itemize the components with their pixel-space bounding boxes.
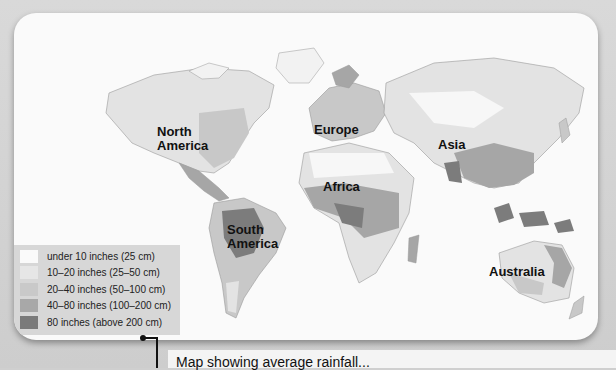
- legend-label: 80 inches (above 200 cm): [47, 317, 162, 328]
- legend-item: 10–20 inches (25–50 cm): [20, 265, 180, 282]
- legend-label: 10–20 inches (25–50 cm): [47, 267, 160, 278]
- label-line: Asia: [438, 138, 465, 152]
- label-line: Europe: [314, 123, 359, 137]
- label-africa: Africa: [323, 180, 360, 194]
- caption-box: Map showing average rainfall...: [168, 350, 616, 368]
- legend-item: 40–80 inches (100–200 cm): [20, 298, 180, 315]
- precipitation-legend: under 10 inches (25 cm) 10–20 inches (25…: [14, 245, 180, 335]
- legend-item: 80 inches (above 200 cm): [20, 314, 180, 331]
- legend-label: under 10 inches (25 cm): [47, 251, 155, 262]
- legend-swatch: [20, 250, 38, 263]
- label-south-america: South America: [227, 223, 278, 251]
- label-asia: Asia: [438, 138, 465, 152]
- label-line: Australia: [489, 265, 545, 279]
- legend-label: 20–40 inches (50–100 cm): [47, 284, 165, 295]
- label-europe: Europe: [314, 123, 359, 137]
- label-line: North: [157, 125, 208, 139]
- map-card: North America Europe Asia Africa South A…: [14, 13, 598, 340]
- label-line: Africa: [323, 180, 360, 194]
- label-line: South: [227, 223, 278, 237]
- legend-swatch: [20, 316, 38, 329]
- legend-label: 40–80 inches (100–200 cm): [47, 300, 171, 311]
- caption-text: Map showing average rainfall...: [176, 354, 370, 370]
- callout-line: [156, 337, 158, 368]
- label-australia: Australia: [489, 265, 545, 279]
- legend-swatch: [20, 299, 38, 312]
- legend-swatch: [20, 266, 38, 279]
- callout-line: [143, 337, 157, 339]
- legend-item: 20–40 inches (50–100 cm): [20, 281, 180, 298]
- label-line: America: [227, 237, 278, 251]
- legend-item: under 10 inches (25 cm): [20, 248, 180, 265]
- label-north-america: North America: [157, 125, 208, 153]
- label-line: America: [157, 139, 208, 153]
- legend-swatch: [20, 283, 38, 296]
